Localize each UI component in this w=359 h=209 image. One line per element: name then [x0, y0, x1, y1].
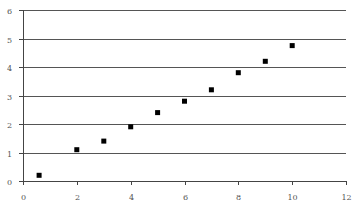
y-tick-label: 2 [7, 121, 12, 130]
x-axis-ticks: 024681012 [21, 181, 352, 202]
data-point [155, 110, 160, 115]
x-tick-label: 12 [341, 193, 351, 202]
data-point [128, 124, 133, 129]
data-point [37, 173, 42, 178]
x-tick-label: 10 [287, 193, 297, 202]
data-point [263, 59, 268, 64]
x-tick-label: 2 [75, 193, 80, 202]
y-tick-label: 1 [7, 150, 12, 159]
x-tick-label: 6 [183, 193, 188, 202]
y-tick-label: 3 [7, 93, 12, 102]
data-point [74, 147, 79, 152]
y-axis-ticks: 0123456 [7, 7, 23, 187]
x-tick-label: 0 [21, 193, 26, 202]
data-points [37, 43, 295, 178]
y-tick-label: 5 [7, 36, 12, 45]
axes [19, 10, 346, 185]
y-tick-label: 4 [7, 64, 12, 73]
gridlines [23, 11, 346, 154]
scatter-chart: 0123456 024681012 [0, 0, 359, 209]
data-point [101, 139, 106, 144]
data-point [290, 43, 295, 48]
x-tick-label: 8 [236, 193, 241, 202]
x-tick-label: 4 [129, 193, 134, 202]
y-tick-label: 6 [7, 7, 12, 16]
data-point [182, 99, 187, 104]
y-tick-label: 0 [7, 178, 12, 187]
data-point [209, 87, 214, 92]
data-point [236, 70, 241, 75]
